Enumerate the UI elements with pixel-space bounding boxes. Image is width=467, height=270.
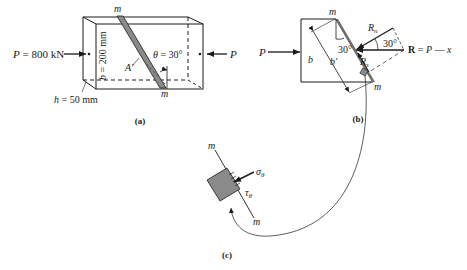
stress-diagram: P = 800 kN P b = 200 mm h = 50 mm θ = 30… bbox=[0, 0, 467, 270]
area-label: A′ bbox=[124, 62, 134, 73]
load-label-right: P bbox=[229, 48, 237, 60]
panel-c: m m σθ τθ (c) bbox=[207, 140, 265, 260]
stress-element bbox=[207, 168, 240, 201]
caption-b: (b) bbox=[353, 114, 364, 124]
angle-label: θ = 30° bbox=[153, 49, 183, 60]
panel-b: P b b′ 30° 30° Rn Rs R = P — x m m (b) bbox=[258, 6, 452, 124]
width-label: h = 50 mm bbox=[54, 94, 98, 105]
resultant-label: R = P — x bbox=[408, 44, 452, 55]
angle-inner-label: 30° bbox=[338, 44, 352, 55]
plane-label-top: m bbox=[114, 3, 121, 14]
height-label: b = 200 mm bbox=[97, 31, 108, 80]
b-prime-label: b′ bbox=[330, 56, 338, 67]
sigma-label: σθ bbox=[256, 166, 265, 179]
normal-stress-arrow bbox=[234, 172, 254, 182]
load-label-b: P bbox=[258, 46, 266, 58]
angle-outer-label: 30° bbox=[383, 38, 397, 49]
panel-a: P = 800 kN P b = 200 mm h = 50 mm θ = 30… bbox=[12, 3, 237, 126]
plane-label-bottom-c: m bbox=[253, 216, 260, 227]
load-label-left: P = 800 kN bbox=[12, 48, 64, 60]
caption-c: (c) bbox=[222, 250, 232, 260]
plane-label-bottom-b: m bbox=[374, 81, 381, 92]
rn-label: Rn bbox=[367, 22, 378, 35]
plane-label-top-c: m bbox=[208, 140, 215, 151]
plane-label-bottom: m bbox=[161, 88, 168, 99]
caption-a: (a) bbox=[135, 116, 146, 126]
tau-label: τθ bbox=[245, 187, 253, 200]
detail-callout-curve bbox=[231, 76, 366, 236]
b-label: b bbox=[308, 54, 313, 65]
plane-label-top-b: m bbox=[329, 6, 336, 17]
